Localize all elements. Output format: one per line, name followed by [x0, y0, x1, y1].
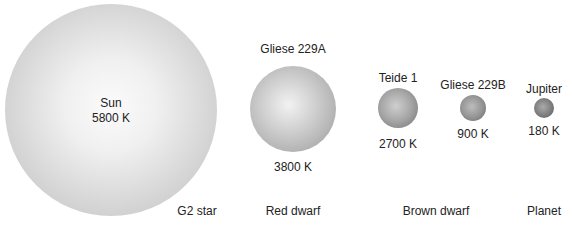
- gliese-229a-name-label: Gliese 229A: [260, 42, 325, 56]
- gliese-229b-name-label: Gliese 229B: [440, 78, 505, 92]
- teide-1-name-label: Teide 1: [379, 71, 418, 85]
- sun-name-label: Sun: [100, 96, 121, 110]
- category-g2-star: G2 star: [177, 204, 216, 218]
- jupiter-temperature-label: 180 K: [528, 124, 559, 138]
- category-brown-dwarf: Brown dwarf: [403, 204, 470, 218]
- category-planet: Planet: [527, 204, 561, 218]
- sun-sphere: [5, 4, 217, 216]
- sun-temperature-label: 5800 K: [92, 111, 130, 125]
- gliese-229a-temperature-label: 3800 K: [274, 160, 312, 174]
- teide-1-sphere: [378, 88, 418, 128]
- gliese-229a-sphere: [250, 66, 336, 152]
- jupiter-sphere: [534, 98, 554, 118]
- category-red-dwarf: Red dwarf: [266, 204, 321, 218]
- jupiter-name-label: Jupiter: [526, 82, 562, 96]
- teide-1-temperature-label: 2700 K: [379, 137, 417, 151]
- gliese-229b-sphere: [460, 95, 486, 121]
- gliese-229b-temperature-label: 900 K: [457, 127, 488, 141]
